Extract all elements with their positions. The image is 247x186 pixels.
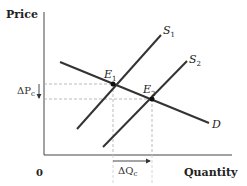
supply-curve-1 xyxy=(77,35,161,129)
supply-curve-2 xyxy=(103,61,187,147)
origin-label: 0 xyxy=(36,167,43,178)
supply-2-label: S2 xyxy=(189,53,201,68)
demand-label: D xyxy=(211,118,221,131)
equilibrium-2-label: E2 xyxy=(142,83,156,98)
supply-demand-diagram: Price Quantity 0 D S1 S2 E1 E2 ΔPc ΔQc xyxy=(0,0,247,186)
price-change-label: ΔPc xyxy=(17,85,35,98)
quantity-change-label: ΔQc xyxy=(118,165,137,178)
y-axis-label: Price xyxy=(6,8,38,21)
supply-1-label: S1 xyxy=(163,24,175,39)
x-axis-label: Quantity xyxy=(184,166,238,179)
equilibrium-1-label: E1 xyxy=(103,68,117,83)
